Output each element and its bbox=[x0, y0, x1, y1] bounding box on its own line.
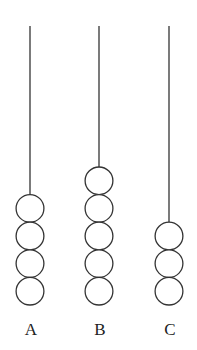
bead bbox=[155, 277, 183, 305]
rod-a bbox=[16, 26, 44, 305]
bead bbox=[85, 222, 113, 250]
bead bbox=[85, 250, 113, 278]
bead bbox=[16, 195, 44, 223]
bead bbox=[16, 222, 44, 250]
bead bbox=[16, 250, 44, 278]
rod-label-c: C bbox=[155, 320, 185, 340]
bead bbox=[16, 277, 44, 305]
bead bbox=[85, 167, 113, 195]
bead bbox=[155, 250, 183, 278]
bead bbox=[85, 195, 113, 223]
bead bbox=[155, 222, 183, 250]
rod-c bbox=[155, 26, 183, 305]
abacus-diagram bbox=[0, 0, 197, 350]
rod-b bbox=[85, 26, 113, 305]
bead bbox=[85, 277, 113, 305]
rod-label-b: B bbox=[85, 320, 115, 340]
rod-label-a: A bbox=[16, 320, 46, 340]
